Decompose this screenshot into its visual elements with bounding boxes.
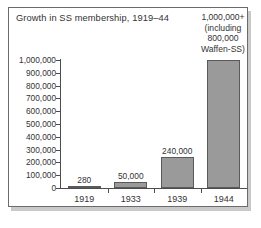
y-axis-tick-label: 800,000 [4, 81, 56, 91]
y-axis-tick-mark [56, 188, 60, 189]
y-axis-tick-label: 0 [4, 183, 56, 193]
bar-1933 [114, 182, 147, 188]
y-axis-tick-mark [56, 137, 60, 138]
y-axis-tick-mark [56, 150, 60, 151]
x-axis-tick-label-1919: 1919 [74, 194, 94, 204]
annotation-line-2: (including [186, 23, 260, 34]
y-axis-tick-mark [56, 162, 60, 163]
chart-figure: Growth in SS membership, 1919–44 1,000,0… [0, 0, 261, 228]
annotation-line-3: 800,000 [186, 33, 260, 44]
x-axis-tick-label-1939: 1939 [167, 194, 187, 204]
y-axis-tick-label: 100,000 [4, 170, 56, 180]
y-axis-tick-mark [56, 73, 60, 74]
chart-annotation: 1,000,000+ (including 800,000 Waffen-SS) [186, 12, 260, 54]
x-axis-tick-mark [108, 189, 109, 193]
y-axis-tick-label: 700,000 [4, 93, 56, 103]
annotation-line-1: 1,000,000+ [186, 12, 260, 23]
annotation-line-4: Waffen-SS) [186, 44, 260, 55]
x-axis-tick-mark [201, 189, 202, 193]
y-axis-tick-label: 1,000,000 [4, 55, 56, 65]
y-axis-tick-label: 200,000 [4, 157, 56, 167]
y-axis-tick-label: 500,000 [4, 119, 56, 129]
y-axis-tick-label: 400,000 [4, 132, 56, 142]
bar-value-label-1933: 50,000 [118, 171, 144, 181]
y-axis-line [60, 59, 61, 189]
bar-1939 [161, 157, 194, 188]
x-axis-tick-label-1944: 1944 [214, 194, 234, 204]
bar-1919 [68, 186, 101, 188]
x-axis-tick-label-1933: 1933 [121, 194, 141, 204]
y-axis-tick-mark [56, 98, 60, 99]
y-axis-tick-mark [56, 60, 60, 61]
y-axis-tick-label: 600,000 [4, 106, 56, 116]
y-axis-tick-mark [56, 111, 60, 112]
bar-1944 [207, 60, 240, 188]
y-axis-tick-label: 900,000 [4, 68, 56, 78]
y-axis-tick-mark [56, 86, 60, 87]
y-axis-tick-mark [56, 124, 60, 125]
y-axis-labels: 1,000,000900,000800,000700,000600,000500… [0, 0, 56, 228]
bar-value-label-1919: 280 [77, 175, 91, 185]
x-axis-tick-mark [154, 189, 155, 193]
y-axis-tick-label: 300,000 [4, 145, 56, 155]
bar-value-label-1939: 240,000 [162, 146, 192, 156]
y-axis-tick-mark [56, 175, 60, 176]
